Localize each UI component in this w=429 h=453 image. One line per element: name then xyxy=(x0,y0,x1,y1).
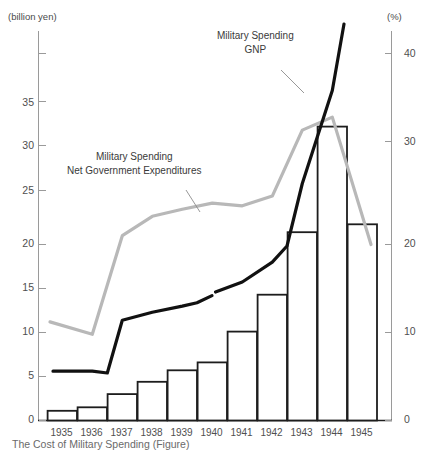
bar-1938 xyxy=(138,382,167,421)
bar-1945 xyxy=(348,224,377,420)
bar-1943 xyxy=(288,232,317,420)
plot-area xyxy=(0,0,429,453)
line-military-spending-over-net-gov-expenditures-segment-1 xyxy=(53,296,212,373)
bar-1941 xyxy=(228,332,257,421)
left-axis-ticks xyxy=(39,54,46,421)
right-axis-ticks xyxy=(385,54,392,421)
bar-1944 xyxy=(318,127,347,421)
bar-1942 xyxy=(258,295,287,421)
figure-caption: The Cost of Military Spending (Figure) xyxy=(12,438,189,450)
bar-series xyxy=(48,127,377,421)
military-spending-chart: (billion yen) (%) 0 5 10 15 20 25 30 35 … xyxy=(0,0,429,453)
bar-1936 xyxy=(78,407,107,420)
leader-line-gnp xyxy=(281,70,304,93)
bar-1939 xyxy=(168,370,197,420)
bar-1937 xyxy=(108,394,137,420)
bar-1940 xyxy=(198,362,227,420)
bar-1935 xyxy=(48,411,77,421)
